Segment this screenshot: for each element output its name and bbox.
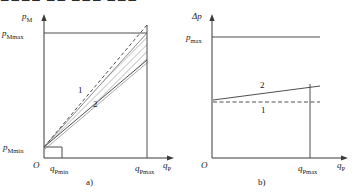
y-tick-label-pmmin: pMmin [3, 143, 23, 154]
x-tick-label-qpmin: qPmin [50, 164, 68, 175]
curve-label-2-b: 2 [260, 81, 265, 90]
y-axis-arrow-b [209, 14, 214, 21]
x-axis-arrow-a [167, 155, 174, 160]
curve-label-1-a: 1 [78, 86, 83, 95]
origin-label-a: O [33, 161, 40, 170]
origin-label-b: O [201, 161, 208, 170]
band-upper-edge-a [44, 33, 147, 147]
x-axis-label-b: qP [337, 161, 345, 172]
curve-1-line-a [44, 25, 147, 147]
panel-b: Δp pmax O qPmax qP 2 1 b) [180, 0, 360, 192]
x-tick-label-qpmax: qPmax [135, 164, 154, 175]
y-axis-label-a: pM [22, 12, 32, 23]
y-axis-label-b: Δp [192, 12, 202, 21]
curve-2-line-b [213, 86, 320, 100]
y-tick-label-pmmax: pMmax [2, 29, 23, 40]
curve-label-2-a: 2 [93, 100, 98, 109]
y-axis-arrow-a [41, 14, 46, 21]
y-tick-label-pmax: pmax [186, 33, 202, 44]
curve-label-1-b: 1 [261, 106, 266, 115]
x-axis-arrow-b [341, 155, 348, 160]
panel-a: pM pMmax pMmin O qPmin qPmax qP 1 2 a) [0, 0, 180, 192]
x-axis-label-a: qP [163, 161, 171, 172]
figure-root: ▬▬▬▬ ▬▬ ▬▬▬ ▬▬▬ [0, 0, 360, 192]
caption-a: a) [86, 178, 93, 187]
x-tick-label-qpmax-b: qPmax [298, 164, 317, 175]
caption-b: b) [258, 178, 266, 187]
